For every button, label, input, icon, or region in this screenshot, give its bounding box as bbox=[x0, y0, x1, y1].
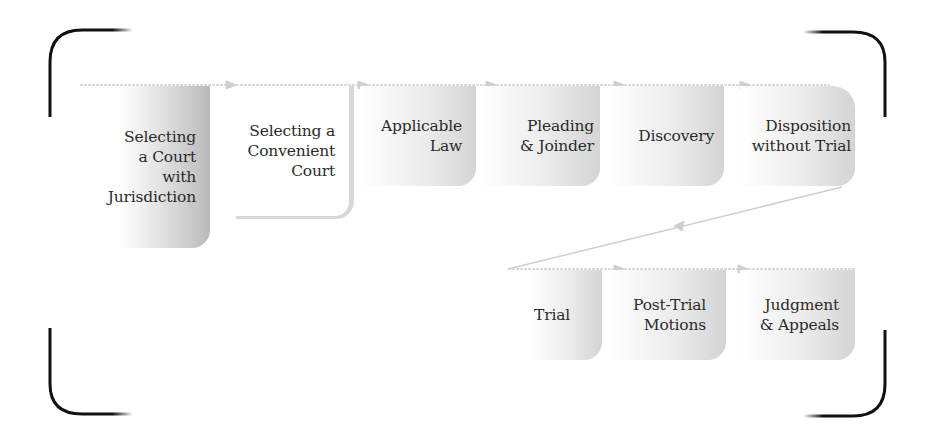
step-label: Applicable Law bbox=[381, 116, 462, 156]
step-selecting-convenient-court: Selecting a Convenient Court bbox=[236, 86, 354, 219]
step-label: Trial bbox=[534, 305, 570, 325]
step-pleading-joinder: Pleading & Joinder bbox=[480, 86, 600, 186]
bottom-left-bracket bbox=[50, 328, 133, 414]
arrow-icon bbox=[226, 81, 236, 89]
step-label: Selecting a Convenient Court bbox=[248, 121, 335, 181]
step-discovery: Discovery bbox=[610, 86, 724, 186]
step-label: Disposition without Trial bbox=[752, 116, 851, 156]
step-trial: Trial bbox=[528, 270, 602, 360]
step-label: Selecting a Court with Jurisdiction bbox=[108, 127, 196, 207]
step-label: Pleading & Joinder bbox=[520, 116, 594, 156]
arrow-icon bbox=[674, 221, 684, 231]
step-disposition-without-trial: Disposition without Trial bbox=[740, 86, 855, 186]
diagonal-connector bbox=[508, 187, 842, 269]
step-applicable-law: Applicable Law bbox=[360, 86, 476, 186]
step-label: Post-Trial Motions bbox=[633, 295, 706, 335]
step-judgment-appeals: Judgment & Appeals bbox=[740, 270, 855, 360]
step-selecting-court-jurisdiction: Selecting a Court with Jurisdiction bbox=[120, 86, 210, 248]
step-post-trial-motions: Post-Trial Motions bbox=[610, 270, 726, 360]
step-label: Judgment & Appeals bbox=[760, 295, 839, 335]
step-label: Discovery bbox=[638, 126, 714, 146]
